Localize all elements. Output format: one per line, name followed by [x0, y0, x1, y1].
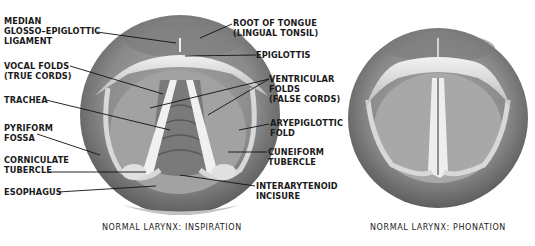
label-interarytenoid-incisure: INTERARYTENOID INCISURE	[256, 181, 338, 201]
caption-phonation: NORMAL LARYNX: PHONATION	[370, 223, 506, 232]
label-esophagus: ESOPHAGUS	[4, 187, 62, 197]
caption-inspiration: NORMAL LARYNX: INSPIRATION	[102, 223, 242, 232]
label-corniculate-tubercle: CORNICULATE TUBERCLE	[4, 155, 69, 175]
label-pyriform-fossa: PYRIFORM FOSSA	[4, 123, 53, 143]
label-median-glosso-epiglottic-ligament: MEDIAN GLOSSO–EPIGLOTTIC LIGAMENT	[4, 16, 100, 46]
label-root-of-tongue: ROOT OF TONGUE (LINGUAL TONSIL)	[233, 18, 318, 38]
label-aryepiglottic-fold: ARYEPIGLOTTIC FOLD	[270, 118, 343, 138]
label-ventricular-folds: VENTRICULAR FOLDS (FALSE CORDS)	[269, 74, 340, 104]
label-trachea: TRACHEA	[4, 95, 48, 105]
label-cuneiform-tubercle: CUNEIFORM TUBERCLE	[268, 147, 324, 167]
label-epiglottis: EPIGLOTTIS	[256, 50, 311, 60]
phonation-view	[348, 28, 528, 208]
label-vocal-folds: VOCAL FOLDS (TRUE CORDS)	[4, 61, 72, 81]
